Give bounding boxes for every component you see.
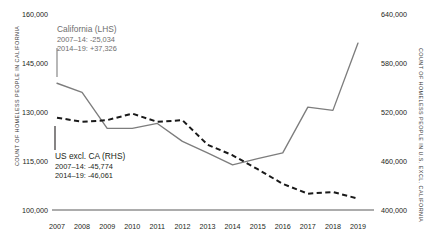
x-axis-tick-label: 2019 (350, 222, 366, 231)
annotation-california: California (LHS) 2007–14: -25,034 2014–1… (57, 25, 117, 53)
x-axis-tick-label: 2012 (174, 222, 190, 231)
chart-container: COUNT OF HOMELESS PEOPLE IN CALIFORNIA C… (0, 0, 427, 246)
x-axis-tick-label: 2008 (74, 222, 90, 231)
series-line-california (57, 43, 358, 165)
x-axis-tick-label: 2013 (200, 222, 216, 231)
annotation-california-row-1: 2007–14: -25,034 (57, 35, 117, 44)
annotation-us-excl-ca-row-1: 2007–14: -45,774 (55, 162, 125, 171)
annotation-us-excl-ca-title: US excl. CA (RHS) (55, 152, 125, 161)
annotation-california-row-2: 2014–19: +37,326 (57, 44, 117, 53)
x-axis-tick-label: 2007 (49, 222, 65, 231)
x-axis-tick-label: 2009 (99, 222, 115, 231)
annotation-us-excl-ca: US excl. CA (RHS) 2007–14: -45,774 2014–… (55, 152, 125, 180)
x-axis-tick-label: 2015 (250, 222, 266, 231)
x-axis-tick-label: 2010 (124, 222, 140, 231)
x-axis-tick-label: 2018 (325, 222, 341, 231)
x-axis-tick-label: 2011 (150, 222, 165, 231)
x-axis-tick-label: 2017 (300, 222, 316, 231)
x-axis-tick-label: 2016 (275, 222, 291, 231)
annotation-california-title: California (LHS) (57, 25, 117, 34)
annotation-us-excl-ca-row-2: 2014–19: -46,061 (55, 171, 125, 180)
x-axis-tick-label: 2014 (225, 222, 241, 231)
